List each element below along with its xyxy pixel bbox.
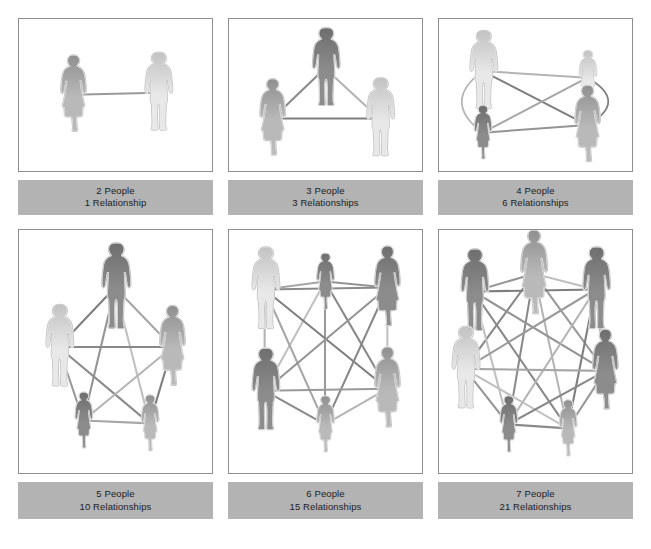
relationship-line — [483, 71, 588, 78]
caption-6-people: 6 People 15 Relationships — [228, 482, 423, 519]
person-woman-left — [260, 79, 286, 156]
relationship-line — [83, 420, 149, 423]
silhouette-man — [461, 249, 489, 331]
caption-4-people: 4 People 6 Relationships — [438, 180, 633, 215]
silhouette-woman — [592, 329, 618, 409]
relationship-line — [483, 78, 588, 133]
person-man-top-left — [470, 30, 498, 108]
person-man-mid-left — [452, 326, 480, 408]
relationship-line — [508, 424, 567, 428]
panel-canvas-7-people — [438, 229, 633, 474]
panel-5-people: 5 People 10 Relationships — [18, 229, 213, 519]
person-woman-top-center — [521, 230, 548, 314]
relationship-line — [483, 125, 588, 133]
people-silhouettes — [470, 30, 601, 161]
person-child-top-center — [317, 253, 335, 309]
silhouette-child — [317, 396, 335, 452]
silhouette-woman — [61, 55, 87, 132]
silhouette-man — [312, 28, 340, 106]
person-woman-top-right — [375, 246, 401, 326]
relationship-line — [483, 71, 588, 125]
silhouette-woman — [260, 79, 286, 156]
panel-canvas-4-people — [438, 18, 633, 172]
caption-3-people: 3 People 3 Relationships — [228, 180, 423, 215]
person-man-bottom-left — [252, 348, 280, 430]
caption-people-count: 4 People — [516, 185, 554, 198]
person-woman-mid-right — [592, 329, 618, 409]
silhouette-man — [583, 247, 611, 329]
person-man-left — [46, 304, 74, 386]
caption-relationship-count: 1 Relationship — [85, 197, 147, 210]
caption-2-people: 2 People 1 Relationship — [18, 180, 213, 215]
panel-6-people: 6 People 15 Relationships — [228, 229, 423, 519]
panel-4-people: 4 People 6 Relationships — [438, 18, 633, 215]
caption-relationship-count: 10 Relationships — [80, 501, 152, 514]
caption-people-count: 7 People — [516, 488, 554, 501]
diagram-6-people — [229, 230, 422, 473]
caption-5-people: 5 People 10 Relationships — [18, 482, 213, 519]
caption-relationship-count: 21 Relationships — [500, 501, 572, 514]
person-child-bottom-center — [317, 396, 335, 452]
caption-people-count: 5 People — [96, 488, 134, 501]
diagram-5-people — [19, 230, 212, 473]
silhouette-woman — [375, 347, 401, 427]
panel-canvas-5-people — [18, 229, 213, 474]
caption-relationship-count: 3 Relationships — [292, 197, 358, 210]
panel-2-people: 2 People 1 Relationship — [18, 18, 213, 215]
silhouette-woman — [375, 246, 401, 326]
panel-7-people: 7 People 21 Relationships — [438, 229, 633, 519]
person-man-top — [312, 28, 340, 106]
people-silhouettes — [452, 230, 618, 456]
person-man-top-left — [461, 249, 489, 331]
person-man-right — [367, 78, 395, 156]
silhouette-child — [317, 253, 335, 309]
person-woman-standing — [61, 55, 87, 132]
silhouette-man — [102, 243, 131, 329]
panel-canvas-2-people — [18, 18, 213, 172]
silhouette-man — [145, 52, 173, 130]
caption-relationship-count: 15 Relationships — [290, 501, 362, 514]
person-woman-bottom-right — [375, 347, 401, 427]
diagram-3-people — [229, 19, 422, 171]
people-silhouettes — [260, 28, 395, 156]
person-woman-bottom-right — [575, 85, 601, 162]
caption-people-count: 3 People — [306, 185, 344, 198]
diagram-4-people — [439, 19, 632, 171]
silhouette-man — [46, 304, 74, 386]
person-man-standing — [145, 52, 173, 130]
relationship-line — [83, 347, 172, 420]
people-silhouettes — [61, 52, 173, 131]
caption-7-people: 7 People 21 Relationships — [438, 482, 633, 519]
caption-relationship-count: 6 Relationships — [502, 197, 568, 210]
diagram-2-people — [19, 19, 212, 171]
person-man-top-right — [583, 247, 611, 329]
relationship-line — [465, 369, 606, 371]
silhouette-man — [252, 348, 280, 430]
panel-grid: 2 People 1 Relationship 3 People 3 Relat… — [18, 18, 633, 534]
panel-canvas-6-people — [228, 229, 423, 474]
caption-people-count: 6 People — [306, 488, 344, 501]
relationship-line — [265, 389, 388, 391]
silhouette-woman — [575, 85, 601, 162]
silhouette-man — [367, 78, 395, 156]
person-man-top — [102, 243, 131, 329]
silhouette-man — [470, 30, 498, 108]
caption-people-count: 2 People — [96, 185, 134, 198]
panel-canvas-3-people — [228, 18, 423, 172]
figure-root: 2 People 1 Relationship 3 People 3 Relat… — [0, 0, 651, 549]
silhouette-man — [452, 326, 480, 408]
diagram-7-people — [439, 230, 632, 473]
panel-3-people: 3 People 3 Relationships — [228, 18, 423, 215]
people-silhouettes — [252, 246, 400, 452]
